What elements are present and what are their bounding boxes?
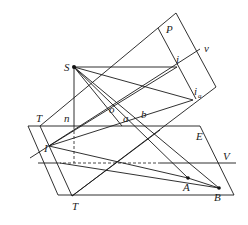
ground-line-tt <box>40 126 72 196</box>
label-e: E <box>195 130 203 142</box>
point-s <box>72 65 76 69</box>
label-b-lower: b <box>141 108 147 120</box>
label-s: S <box>64 61 70 73</box>
label-a-upper: A <box>182 181 190 193</box>
label-t-top: T <box>36 112 43 124</box>
perspective-diagram: S P i v i a o a b T n E I V A B T <box>0 0 248 225</box>
ground-plane-e <box>28 126 234 195</box>
label-n: n <box>64 112 70 124</box>
label-p: P <box>165 23 173 35</box>
point-b <box>217 186 221 190</box>
point-a <box>186 176 190 180</box>
label-t-bottom: T <box>72 200 79 212</box>
label-a-lower: a <box>123 112 129 124</box>
label-v-upper: V <box>223 150 231 162</box>
label-i: i <box>176 53 179 65</box>
label-o: o <box>109 103 115 115</box>
picture-plane-p <box>40 13 216 196</box>
label-b-upper: B <box>214 191 221 203</box>
label-v-lower: v <box>204 42 209 54</box>
label-i-a: i <box>194 85 197 97</box>
line-ab <box>188 178 219 188</box>
label-i-a-sub: a <box>198 92 202 100</box>
rays-from-s <box>74 67 219 188</box>
